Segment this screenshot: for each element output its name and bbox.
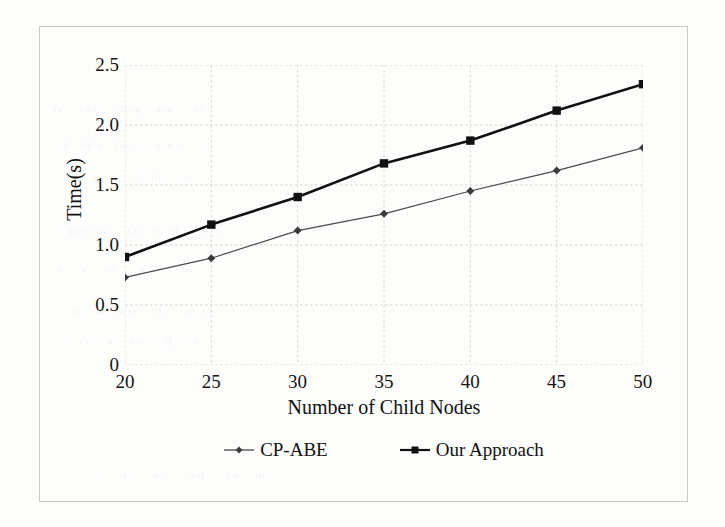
x-tick-label: 20 (116, 372, 135, 391)
y-tick-label: 2.0 (73, 115, 119, 134)
data-point-marker-square (380, 159, 388, 167)
data-point-marker-diamond (639, 144, 643, 152)
legend-label: Our Approach (436, 440, 544, 460)
plot-area (125, 65, 643, 365)
plot-svg (125, 65, 643, 365)
x-tick-label: 40 (461, 372, 480, 391)
data-point-marker-diamond (553, 167, 561, 175)
data-point-marker-square (552, 106, 560, 114)
x-tick-label: 35 (374, 372, 393, 391)
x-axis-tick-labels: 20 25 30 35 40 45 50 (125, 372, 643, 398)
x-tick-label: 30 (288, 372, 307, 391)
legend-label: CP-ABE (260, 440, 328, 460)
data-point-marker-square (207, 220, 215, 228)
x-tick-label: 50 (633, 372, 652, 391)
data-point-marker-square (639, 80, 643, 88)
figure-canvas: 3x l·lıl. ι°ι.ιιη τιοι ιιl ·ıl ll·-ı l·ı… (0, 0, 725, 527)
y-tick-label: 0 (73, 355, 119, 374)
data-point-marker-square (125, 253, 129, 261)
data-point-marker-square (466, 136, 474, 144)
x-tick-label: 45 (547, 372, 566, 391)
y-tick-label: 2.5 (73, 55, 119, 74)
chart-legend: CP-ABE Our Approach (125, 440, 643, 460)
y-tick-label: 1.0 (73, 235, 119, 254)
legend-item-our-approach[interactable]: Our Approach (400, 440, 544, 460)
legend-marker-diamond-icon (224, 443, 254, 457)
data-point-marker-diamond (207, 254, 215, 262)
x-axis-title: Number of Child Nodes (125, 396, 643, 419)
data-point-marker-diamond (380, 210, 388, 218)
legend-marker-square-icon (400, 443, 430, 457)
data-point-marker-diamond (466, 187, 474, 195)
y-tick-label: 0.5 (73, 295, 119, 314)
data-point-marker-diamond (294, 227, 302, 235)
y-tick-label: 1.5 (73, 175, 119, 194)
y-axis-tick-labels: 2.5 2.0 1.5 1.0 0.5 0 (65, 0, 119, 527)
data-point-marker-square (293, 193, 301, 201)
data-point-marker-diamond (125, 273, 129, 281)
x-tick-label: 25 (202, 372, 221, 391)
legend-item-cp-abe[interactable]: CP-ABE (224, 440, 328, 460)
